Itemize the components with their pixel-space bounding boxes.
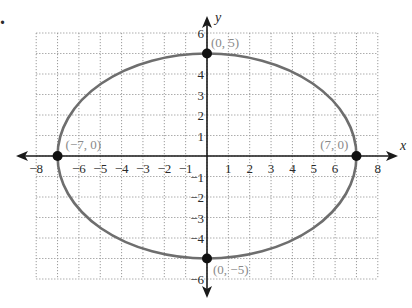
problem-marker: . <box>0 6 5 28</box>
y-tick-label: −1 <box>190 170 204 185</box>
x-tick-label: 6 <box>332 161 339 176</box>
point-label: (−7, 0) <box>66 137 102 152</box>
point-label: (0, 5) <box>211 35 239 50</box>
x-tick-label: 4 <box>289 161 296 176</box>
point-label: (0, −5) <box>213 262 249 277</box>
x-tick-label: 2 <box>246 161 253 176</box>
y-tick-label: 1 <box>198 129 205 144</box>
y-tick-label: −6 <box>190 272 204 287</box>
x-tick-label: −4 <box>115 161 129 176</box>
y-axis-label: y <box>213 10 222 25</box>
x-tick-label: −3 <box>136 161 150 176</box>
y-tick-label: −2 <box>190 190 204 205</box>
vertex-dot <box>202 49 212 59</box>
y-tick-label: 6 <box>198 26 205 41</box>
vertex-dot <box>351 151 361 161</box>
ellipse-chart: (0, 5)(7, 0)(−7, 0)(0, −5) −8−6−5−4−3−2−… <box>0 0 412 308</box>
x-tick-label: 8 <box>375 161 382 176</box>
y-tick-label: −3 <box>190 211 204 226</box>
x-axis-label: x <box>399 138 407 153</box>
y-tick-label: 4 <box>198 67 205 82</box>
vertex-dot <box>202 254 212 264</box>
x-tick-label: −6 <box>72 161 86 176</box>
x-tick-label: −5 <box>93 161 107 176</box>
x-tick-label: −8 <box>29 161 43 176</box>
y-tick-label: 3 <box>198 88 205 103</box>
y-tick-label: −4 <box>190 231 204 246</box>
point-label: (7, 0) <box>320 137 348 152</box>
x-tick-label: 1 <box>225 161 232 176</box>
y-tick-label: 2 <box>198 108 205 123</box>
x-tick-label: −2 <box>157 161 171 176</box>
vertex-dot <box>53 151 63 161</box>
x-tick-label: 3 <box>268 161 275 176</box>
x-tick-label: 5 <box>311 161 318 176</box>
